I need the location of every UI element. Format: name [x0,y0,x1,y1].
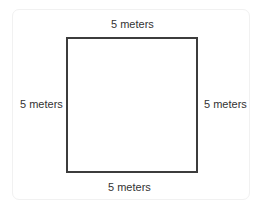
bottom-side-label: 5 meters [108,181,151,194]
left-side-label: 5 meters [20,98,63,111]
square-shape [66,37,198,173]
top-side-label: 5 meters [111,18,154,31]
right-side-label: 5 meters [204,98,247,111]
